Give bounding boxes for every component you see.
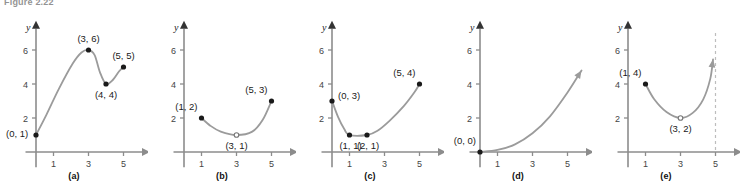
panel-e: yx246135(1, 4)(3, 2)(e) [592, 4, 740, 182]
panel-row: yx246135(0, 1)(3, 6)(4, 4)(5, 5)(a)yx246… [0, 4, 743, 182]
point-label: (1, 4) [619, 67, 641, 78]
y-tick-label: 4 [171, 80, 176, 90]
data-point-filled [103, 81, 108, 86]
data-point-filled [33, 132, 38, 137]
point-label: (4, 4) [95, 89, 117, 100]
y-axis-label: y [469, 22, 475, 33]
x-tick-label: 1 [199, 159, 204, 169]
data-point-filled [417, 81, 422, 86]
point-label: (3, 2) [669, 123, 691, 134]
x-tick-label: 3 [234, 159, 239, 169]
panel-caption-d: (d) [444, 171, 592, 181]
point-label: (3, 1) [225, 140, 247, 151]
plot-d: yx246135(0, 0) [444, 4, 592, 182]
plot-c: yx246135(0, 3)(1, 1)(2, 1)(5, 4) [296, 4, 444, 182]
point-label: (5, 3) [245, 84, 267, 95]
data-point-open [678, 116, 683, 121]
point-label: (5, 4) [393, 67, 415, 78]
figure-root: Figure 2.22 yx246135(0, 1)(3, 6)(4, 4)(5… [0, 0, 743, 182]
x-tick-label: 1 [643, 159, 648, 169]
y-tick-label: 2 [171, 114, 176, 124]
y-tick-label: 6 [23, 46, 28, 56]
x-tick-label: 1 [495, 159, 500, 169]
data-point-filled [199, 115, 204, 120]
x-tick-label: 5 [417, 159, 422, 169]
panel-a: yx246135(0, 1)(3, 6)(4, 4)(5, 5)(a) [0, 4, 148, 182]
data-point-filled [477, 149, 482, 154]
y-axis-label: y [617, 22, 623, 33]
y-axis-arrow-icon [328, 21, 336, 29]
y-tick-label: 4 [467, 80, 472, 90]
data-point-open [234, 133, 239, 138]
panel-caption-a: (a) [0, 171, 148, 181]
x-tick-label: 5 [269, 159, 274, 169]
point-label: (1, 2) [175, 101, 197, 112]
data-point-filled [329, 98, 334, 103]
y-tick-label: 4 [23, 80, 28, 90]
y-axis-label: y [321, 22, 327, 33]
y-tick-label: 2 [615, 114, 620, 124]
y-tick-label: 4 [319, 80, 324, 90]
panel-b: yx246135(1, 2)(3, 1)(5, 3)(b) [148, 4, 296, 182]
y-tick-label: 6 [615, 46, 620, 56]
data-point-filled [269, 98, 274, 103]
y-axis-arrow-icon [624, 21, 632, 29]
x-tick-label: 5 [121, 159, 126, 169]
plot-e: yx246135(1, 4)(3, 2) [592, 4, 740, 182]
y-axis-label: y [173, 22, 179, 33]
x-tick-label: 3 [530, 159, 535, 169]
y-axis-arrow-icon [32, 21, 40, 29]
curve-arrow-icon [709, 59, 716, 67]
data-point-filled [364, 132, 369, 137]
y-tick-label: 4 [615, 80, 620, 90]
x-tick-label: 5 [565, 159, 570, 169]
point-label: (0, 1) [6, 128, 28, 139]
data-point-filled [86, 47, 91, 52]
panel-caption-b: (b) [148, 171, 296, 181]
x-tick-label: 5 [713, 159, 718, 169]
data-point-filled [347, 132, 352, 137]
data-point-filled [643, 81, 648, 86]
x-tick-label: 1 [347, 159, 352, 169]
panel-caption-e: (e) [592, 171, 740, 181]
y-tick-label: 6 [319, 46, 324, 56]
y-tick-label: 2 [23, 114, 28, 124]
plot-a: yx246135(0, 1)(3, 6)(4, 4)(5, 5) [0, 4, 148, 182]
y-tick-label: 2 [467, 114, 472, 124]
y-tick-label: 2 [319, 114, 324, 124]
point-label: (3, 6) [77, 33, 99, 44]
y-axis-arrow-icon [180, 21, 188, 29]
y-axis-arrow-icon [476, 21, 484, 29]
x-tick-label: 1 [51, 159, 56, 169]
y-axis-label: y [25, 22, 31, 33]
point-label: (0, 0) [454, 135, 476, 146]
curve [480, 70, 582, 152]
y-tick-label: 6 [171, 46, 176, 56]
y-tick-label: 6 [467, 46, 472, 56]
point-label: (0, 3) [338, 90, 360, 101]
panel-d: yx246135(0, 0)(d) [444, 4, 592, 182]
x-tick-label: 3 [678, 159, 683, 169]
plot-b: yx246135(1, 2)(3, 1)(5, 3) [148, 4, 296, 182]
curve [202, 101, 272, 135]
x-tick-label: 3 [86, 159, 91, 169]
data-point-filled [121, 64, 126, 69]
point-label: (2, 1) [357, 140, 379, 151]
x-axis-arrow-icon [734, 148, 740, 156]
x-tick-label: 3 [382, 159, 387, 169]
panel-c: yx246135(0, 3)(1, 1)(2, 1)(5, 4)(c) [296, 4, 444, 182]
curve [646, 59, 714, 118]
point-label: (5, 5) [112, 50, 134, 61]
panel-caption-c: (c) [296, 171, 444, 181]
